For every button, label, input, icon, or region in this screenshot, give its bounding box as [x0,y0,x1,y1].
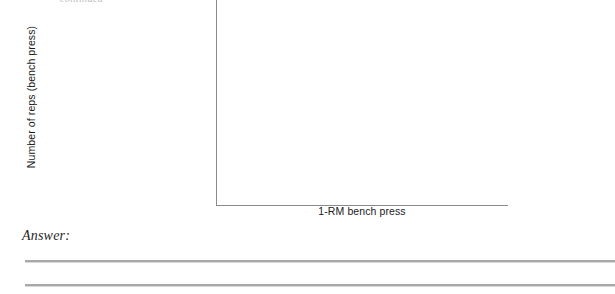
blank-graph-figure: Number of reps (bench press) 1-RM bench … [0,0,615,224]
answer-label: Answer: [22,228,70,244]
answer-rule-line[interactable] [25,284,615,287]
y-axis-line [216,0,217,206]
x-axis-label: 1-RM bench press [216,205,508,217]
answer-rule-line[interactable] [25,260,615,263]
y-axis-label: Number of reps (bench press) [25,2,37,192]
plot-area [217,0,508,205]
worksheet-page: continued Number of reps (bench press) 1… [0,0,615,294]
